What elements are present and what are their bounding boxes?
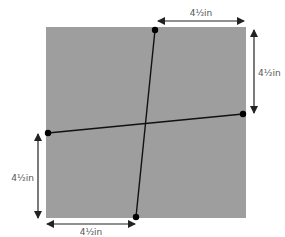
right-point [240, 111, 246, 117]
left-dimension-label: 4½in [11, 173, 34, 183]
bottom-point [133, 214, 139, 220]
top-dimension-label: 4½in [190, 8, 213, 18]
right-dimension-label: 4½in [258, 68, 281, 78]
bottom-dimension-label: 4½in [80, 227, 103, 237]
left-point [45, 130, 51, 136]
top-point [152, 27, 158, 33]
diagram-canvas: 4½in 4½in 4½in 4½in [0, 0, 285, 237]
